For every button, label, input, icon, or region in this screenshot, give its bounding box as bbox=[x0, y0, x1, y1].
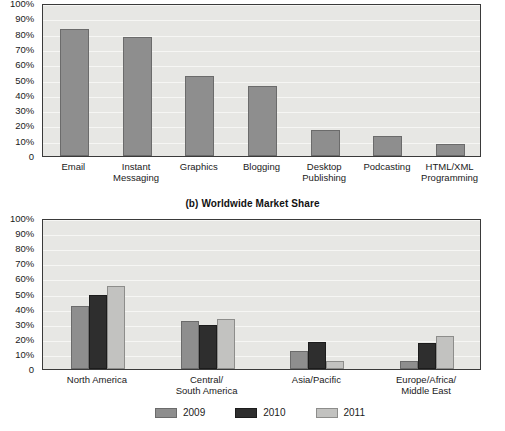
y-axis-tick-label: 30% bbox=[15, 106, 34, 116]
y-axis-tick-label: 60% bbox=[15, 275, 34, 285]
gridline bbox=[43, 235, 480, 236]
y-axis-tick-label: 20% bbox=[15, 122, 34, 132]
bar bbox=[436, 144, 465, 156]
y-axis-tick-label: 40% bbox=[15, 91, 34, 101]
legend-swatch bbox=[155, 408, 177, 418]
x-axis-category-label: Europe/Africa/ Middle East bbox=[359, 374, 493, 396]
y-axis-tick-label: 10% bbox=[15, 350, 34, 360]
y-axis-tick-label: 90% bbox=[15, 15, 34, 25]
bar bbox=[311, 130, 340, 156]
y-axis-tick-label: 60% bbox=[15, 60, 34, 70]
y-axis-tick-label: 90% bbox=[15, 229, 34, 239]
gridline bbox=[43, 20, 480, 21]
bar bbox=[418, 343, 436, 369]
legend-item: 2011 bbox=[316, 407, 366, 418]
panel-a-plot-area bbox=[42, 4, 481, 157]
y-axis-tick-label: 70% bbox=[15, 45, 34, 55]
panel-b-x-labels: North AmericaCentral/ South AmericaAsia/… bbox=[42, 374, 481, 402]
panel-b-title: (b) Worldwide Market Share bbox=[0, 198, 505, 209]
y-axis-tick-label: 100% bbox=[10, 0, 34, 9]
panel-b-plot-wrap: 100%90%80%70%60%50%40%30%20%10%0 bbox=[0, 219, 483, 370]
chart-panel-a: 100%90%80%70%60%50%40%30%20%10%0 EmailIn… bbox=[0, 0, 505, 195]
bar bbox=[89, 295, 107, 369]
bar bbox=[181, 321, 199, 369]
x-axis-category-label: HTML/XML Programming bbox=[406, 161, 493, 183]
gridline bbox=[43, 36, 480, 37]
bar bbox=[199, 325, 217, 369]
bar bbox=[248, 86, 277, 156]
bar bbox=[217, 319, 235, 369]
legend-label: 2010 bbox=[263, 407, 285, 418]
panel-a-x-labels: EmailInstant MessagingGraphicsBloggingDe… bbox=[42, 161, 481, 191]
y-axis-tick-label: 40% bbox=[15, 305, 34, 315]
chart-panel-b: (b) Worldwide Market Share 100%90%80%70%… bbox=[0, 195, 505, 431]
y-axis-tick-label: 100% bbox=[10, 214, 34, 224]
gridline bbox=[43, 5, 480, 6]
gridline bbox=[43, 250, 480, 251]
bar bbox=[123, 37, 152, 156]
y-axis-tick-label: 50% bbox=[15, 76, 34, 86]
gridline bbox=[43, 51, 480, 52]
legend-label: 2011 bbox=[344, 407, 366, 418]
y-axis-tick-label: 30% bbox=[15, 320, 34, 330]
bar bbox=[60, 29, 89, 156]
y-axis-tick-label: 80% bbox=[15, 244, 34, 254]
y-axis-tick-label: 20% bbox=[15, 335, 34, 345]
bar bbox=[373, 136, 402, 156]
y-axis-tick-label: 80% bbox=[15, 30, 34, 40]
bar bbox=[400, 361, 418, 369]
legend-item: 2009 bbox=[155, 407, 205, 418]
y-axis-tick-label: 70% bbox=[15, 260, 34, 270]
bar bbox=[308, 342, 326, 369]
y-axis-tick-label: 10% bbox=[15, 137, 34, 147]
bar bbox=[290, 351, 308, 369]
panel-b-y-axis: 100%90%80%70%60%50%40%30%20%10%0 bbox=[0, 219, 38, 370]
panel-a-plot-wrap: 100%90%80%70%60%50%40%30%20%10%0 bbox=[0, 4, 483, 157]
gridline bbox=[43, 220, 480, 221]
gridline bbox=[43, 280, 480, 281]
bar bbox=[326, 361, 344, 369]
legend-swatch bbox=[316, 408, 338, 418]
legend-swatch bbox=[235, 408, 257, 418]
legend-item: 2010 bbox=[235, 407, 285, 418]
bar bbox=[71, 306, 89, 369]
legend-label: 2009 bbox=[183, 407, 205, 418]
bar bbox=[436, 336, 454, 369]
bar bbox=[107, 286, 125, 369]
panel-b-legend: 200920102011 bbox=[155, 407, 365, 418]
panel-b-plot-area bbox=[42, 219, 481, 370]
y-axis-tick-label: 50% bbox=[15, 290, 34, 300]
gridline bbox=[43, 82, 480, 83]
bar bbox=[185, 76, 214, 156]
gridline bbox=[43, 265, 480, 266]
panel-a-y-axis: 100%90%80%70%60%50%40%30%20%10%0 bbox=[0, 4, 38, 157]
gridline bbox=[43, 66, 480, 67]
